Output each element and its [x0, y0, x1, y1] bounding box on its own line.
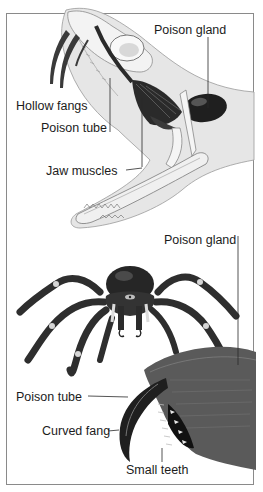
snake-head-illustration — [50, 8, 254, 228]
label-snake-hollow-fangs: Hollow fangs — [16, 99, 88, 113]
fang-closeup-illustration — [119, 347, 256, 470]
label-spider-poison-gland: Poison gland — [164, 233, 236, 247]
label-spider-small-teeth: Small teeth — [126, 463, 189, 477]
label-spider-poison-tube: Poison tube — [16, 390, 82, 404]
label-snake-poison-gland: Poison gland — [154, 23, 226, 37]
label-spider-curved-fang: Curved fang — [42, 424, 110, 438]
label-snake-poison-tube: Poison tube — [41, 121, 107, 135]
label-snake-jaw-muscles: Jaw muscles — [46, 164, 118, 178]
